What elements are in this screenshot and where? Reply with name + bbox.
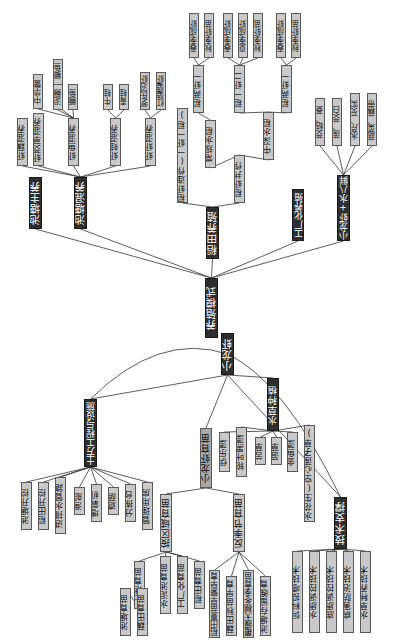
tree-node[interactable]: 鳜鱼	[68, 84, 78, 110]
tree-node-label: 池塘混养	[75, 181, 86, 225]
tree-node[interactable]: 小龙虾育苗	[200, 428, 212, 488]
tree-node[interactable]: 池塘主养	[29, 177, 42, 229]
tree-node[interactable]: 稻田夏苗早繁早育	[209, 570, 220, 638]
tree-node[interactable]: 渔船	[74, 487, 85, 515]
tree-node-label: 金鱼藻	[288, 439, 297, 466]
tree-node-label: 夏季成虾	[239, 20, 247, 52]
tree-node[interactable]: 常规水稻	[205, 120, 216, 168]
tree-node[interactable]: 牛蛙	[103, 84, 113, 110]
tree-node[interactable]: 池塘存留晚育	[260, 576, 271, 636]
tree-node[interactable]: 小龙虾+水八鲜	[337, 175, 350, 241]
tree-node[interactable]: 工厂化育苗	[177, 556, 188, 614]
tree-node[interactable]: 养殖模式	[205, 278, 218, 338]
tree-node[interactable]: 春季成虾	[276, 13, 286, 58]
tree-node[interactable]: 反季节育苗	[233, 494, 245, 552]
tree-node[interactable]: 伊乐藻	[219, 432, 230, 472]
tree-node[interactable]: 水花生(空心莲子草)	[304, 425, 315, 522]
tree-node[interactable]: 工厂化养殖	[292, 189, 304, 241]
tree-node[interactable]: 红螯螯虾	[156, 72, 166, 110]
tree-node-label: 秋季虾苗	[254, 20, 262, 52]
tree-edge	[240, 58, 259, 65]
tree-node[interactable]: 技术支撑	[334, 497, 347, 549]
tree-node[interactable]: 虾虾混养	[145, 118, 156, 166]
tree-node[interactable]: 按区域育苗	[160, 494, 172, 552]
tree-node[interactable]: 秋季虾苗	[291, 13, 301, 58]
tree-node[interactable]: 稻虾连作(一虾一稻)	[177, 108, 188, 203]
tree-node[interactable]: 泥鳅	[53, 84, 63, 110]
tree-node-label: 虾虾混养	[146, 124, 155, 160]
tree-node[interactable]: 稻虾共作	[234, 155, 245, 203]
tree-edge	[81, 166, 116, 177]
tree-node[interactable]: 秋季虾苗	[204, 13, 214, 58]
tree-node[interactable]: 管理用房	[142, 482, 153, 530]
tree-node[interactable]: 金鱼藻	[287, 432, 298, 472]
tree-node-label: 水质调控技术	[310, 565, 319, 619]
tree-node-label: 小龙虾+水八鲜	[339, 176, 348, 240]
tree-node-label: 池塘存留晚育	[261, 579, 270, 633]
tree-node[interactable]: 覆膜大棚冬季育苗	[243, 570, 254, 638]
tree-edge	[39, 166, 81, 177]
tree-node[interactable]: 底质调控技术	[326, 551, 337, 633]
tree-node[interactable]: 池塘开挖	[21, 482, 32, 530]
tree-node[interactable]: 藕田秋苗早育	[226, 576, 237, 636]
tree-edge	[61, 467, 91, 477]
tree-node[interactable]: 茭结、菱	[315, 98, 325, 146]
tree-node[interactable]: 稻两虾一	[193, 65, 204, 113]
tree-edge	[91, 467, 97, 484]
tree-edge	[212, 241, 299, 278]
tree-node[interactable]: 罗氏沼虾	[140, 72, 150, 110]
tree-node-label: 鳜鱼	[69, 89, 77, 105]
tree-node[interactable]: 水质调控技术	[309, 551, 320, 633]
tree-node-label: 秋季虾苗	[292, 20, 300, 52]
tree-node-label: 池塘育苗	[121, 594, 130, 630]
tree-node[interactable]: 秋季虾苗	[253, 13, 263, 58]
tree-node[interactable]: 分拣台	[125, 484, 136, 522]
tree-node-label: 苦草	[256, 442, 265, 460]
tree-node-label: 菹草	[272, 442, 281, 460]
tree-node[interactable]: 稻田养殖	[206, 207, 219, 259]
tree-node[interactable]: 小龙虾	[221, 333, 234, 375]
tree-node[interactable]: 遮荫	[108, 487, 119, 515]
tree-node[interactable]: 稻田开挖	[38, 482, 49, 530]
tree-node[interactable]: 土方工程与设施	[84, 399, 97, 467]
tree-node[interactable]: 水草种养技术	[360, 551, 371, 633]
tree-node[interactable]: 稻田育苗	[194, 561, 205, 609]
tree-node[interactable]: 藕田育苗	[137, 588, 148, 636]
tree-edge	[239, 552, 249, 570]
tree-node[interactable]: 虾蛙混养	[110, 118, 121, 166]
tree-node-label: 伊乐藻	[220, 439, 229, 466]
tree-node[interactable]: 稻两虾一	[281, 65, 292, 113]
tree-node[interactable]: 春季成虾	[189, 13, 199, 58]
tree-node-label: 覆膜大棚冬季育苗	[245, 572, 253, 636]
tree-node[interactable]: 病害防治技术	[343, 551, 354, 633]
tree-edge	[228, 58, 240, 65]
tree-node[interactable]: 水芹、芡实	[350, 93, 360, 146]
tree-node[interactable]: 中华鳖	[33, 74, 43, 109]
tree-node[interactable]: 青蛙	[119, 84, 129, 110]
tree-node[interactable]: 轮叶黑藻	[236, 427, 247, 477]
tree-node[interactable]: 春季成虾	[223, 13, 233, 58]
tree-node[interactable]: 虾藕混养	[17, 118, 28, 166]
tree-node[interactable]: 莲、茭白	[332, 98, 342, 146]
tree-node[interactable]: 增氧机	[91, 484, 102, 522]
tree-node[interactable]: 虾茭草混养	[33, 113, 44, 166]
tree-node-label: 蔬菜、藕带	[368, 100, 376, 140]
tree-node[interactable]: 菹草	[271, 437, 282, 465]
tree-node-label: 病害防治技术	[344, 565, 353, 619]
tree-node[interactable]: 水泥池育苗	[160, 556, 171, 614]
tree-node-label: 茭结、菱	[316, 106, 324, 138]
tree-node[interactable]: 蔬菜、藕带	[367, 93, 377, 146]
tree-node[interactable]: 苦草	[255, 437, 266, 465]
tree-node[interactable]: 池塘混养	[74, 177, 87, 229]
tree-edge	[91, 375, 228, 399]
tree-node[interactable]: 饲料投喂技术	[292, 551, 303, 633]
tree-node[interactable]: 稻一虾二	[234, 65, 245, 113]
tree-node[interactable]: 中深水稻	[263, 112, 274, 160]
tree-node-label: 稻田夏苗早繁早育	[211, 572, 219, 636]
tree-node[interactable]: 水草种植	[267, 378, 279, 431]
tree-node-label: 稻田开挖	[39, 488, 48, 524]
tree-node[interactable]: 池塘育苗	[120, 588, 131, 636]
tree-node[interactable]: 虾鱼混养	[68, 118, 79, 166]
tree-node[interactable]: 进排水管路	[55, 477, 66, 534]
tree-node[interactable]: 夏季成虾	[238, 13, 248, 58]
